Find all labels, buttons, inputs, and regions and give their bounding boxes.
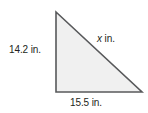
left-leg-label: 14.2 in.: [9, 44, 41, 56]
right-triangle-figure: 14.2 in. 15.5 in. x in.: [0, 0, 148, 113]
bottom-leg-label: 15.5 in.: [70, 97, 102, 109]
hypotenuse-label: x in.: [97, 33, 115, 45]
hypotenuse-variable: x: [97, 33, 102, 44]
triangle-polygon: [56, 12, 142, 92]
hypotenuse-unit: in.: [105, 33, 115, 44]
